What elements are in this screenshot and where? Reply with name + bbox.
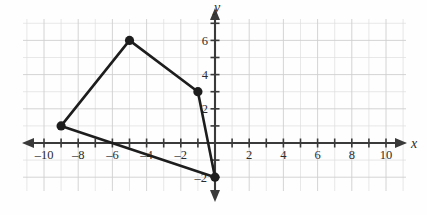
vertex-point [57, 121, 66, 130]
vertex-point [125, 36, 134, 45]
vertex-point [210, 173, 219, 182]
x-tick-label: 2 [246, 148, 252, 162]
x-tick-label: –6 [105, 148, 119, 162]
x-axis-label: x [410, 136, 418, 151]
x-tick-label: –2 [174, 148, 188, 162]
x-tick-label: 4 [280, 148, 287, 162]
coordinate-plane-svg: –10–8–6–4–2246810642–2xy [0, 0, 427, 215]
y-tick-label: 4 [202, 68, 209, 82]
x-tick-label: –8 [71, 148, 85, 162]
y-tick-label: 6 [202, 34, 208, 48]
vertex-point [193, 87, 202, 96]
coordinate-plane-figure: –10–8–6–4–2246810642–2xy [0, 0, 427, 215]
x-tick-label: 8 [349, 148, 355, 162]
y-axis-label: y [212, 0, 221, 15]
figure-background [0, 0, 427, 215]
x-tick-label: 10 [380, 148, 393, 162]
x-tick-label: –10 [34, 148, 54, 162]
x-tick-label: 6 [314, 148, 320, 162]
